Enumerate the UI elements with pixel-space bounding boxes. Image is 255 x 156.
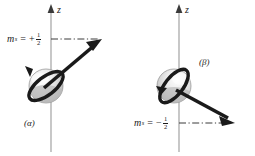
ms-variable-beta: m [134,118,141,128]
ms-subscript-beta: s [142,120,145,127]
panel-label-alpha: (α) [24,119,35,128]
ms-denominator-beta: 2 [163,123,168,131]
figure-canvas [0,0,255,156]
ms-subscript-alpha: s [15,36,18,43]
panel-label-beta: (β) [199,58,209,67]
spin-vector-shaft-beta [176,90,228,118]
ms-label-alpha: ms = + 1 2 [7,32,41,47]
ms-variable-alpha: m [7,34,14,44]
ms-sign-alpha: + [29,34,35,44]
ms-equals-alpha: = [20,34,26,44]
ms-label-beta: ms = − 1 2 [134,116,168,131]
spin-vector-beta [176,90,235,126]
z-axis-label-alpha: z [57,5,61,15]
ms-numerator-beta: 1 [163,116,168,123]
spin-loop-arrowhead-alpha [25,66,33,77]
ms-sign-beta: − [156,118,162,128]
panel-alpha [24,4,102,152]
spin-vector-shaft-alpha [44,44,96,88]
ms-numerator-alpha: 1 [36,32,41,39]
spin-vector-alpha [44,39,102,88]
ms-fraction-alpha: 1 2 [36,32,41,47]
ms-denominator-alpha: 2 [36,39,41,47]
z-axis-arrowhead-beta [176,4,183,13]
spin-states-figure: z z ms = + 1 2 (α) ms = − 1 2 (β) [0,0,255,156]
ms-fraction-beta: 1 2 [163,116,168,131]
z-axis-arrowhead-alpha [48,4,55,13]
z-axis-label-beta: z [185,5,189,15]
ms-equals-beta: = [147,118,153,128]
